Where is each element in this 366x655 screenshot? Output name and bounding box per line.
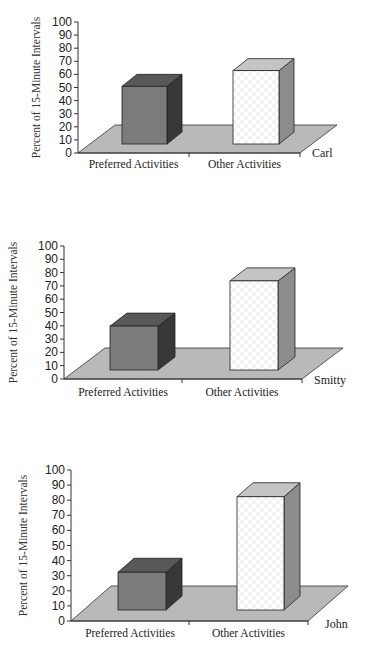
- y-axis: 0102030405060708090100: [52, 15, 78, 160]
- y-axis-title: Percent of 15-Minute Intervals: [17, 474, 29, 616]
- x-category-label: Preferred Activities: [78, 386, 168, 398]
- y-tick-label: 40: [52, 554, 66, 568]
- y-tick-label: 0: [58, 614, 65, 628]
- y-tick-label: 10: [59, 133, 73, 147]
- y-tick-label: 40: [59, 94, 73, 108]
- chart-floor: [78, 125, 337, 153]
- chart-john: 0102030405060708090100Preferred Activiti…: [0, 455, 366, 655]
- x-category-label: Other Activities: [208, 158, 282, 170]
- y-tick-label: 20: [59, 120, 73, 134]
- bar-other-activities: [230, 268, 295, 370]
- y-tick-label: 90: [59, 28, 73, 42]
- y-tick-label: 20: [45, 345, 59, 359]
- y-tick-label: 20: [52, 584, 66, 598]
- y-tick-label: 50: [59, 81, 73, 95]
- y-tick-label: 60: [45, 292, 59, 306]
- chart-smitty: 0102030405060708090100Preferred Activiti…: [0, 225, 366, 410]
- y-tick-label: 100: [52, 15, 72, 29]
- y-tick-label: 70: [59, 54, 73, 68]
- bar-preferred-activities: [122, 74, 182, 144]
- y-tick-label: 80: [45, 266, 59, 280]
- bar-preferred-activities: [118, 558, 182, 610]
- y-tick-label: 10: [45, 359, 59, 373]
- y-tick-label: 80: [52, 493, 66, 507]
- y-tick-label: 40: [45, 319, 59, 333]
- y-tick-label: 70: [52, 508, 66, 522]
- y-axis-title: Percent of 15-Minute Intervals: [7, 241, 19, 383]
- series-label: Smitty: [314, 373, 346, 387]
- y-tick-label: 50: [45, 306, 59, 320]
- y-tick-label: 60: [59, 67, 73, 81]
- y-axis: 0102030405060708090100: [38, 239, 64, 386]
- x-category-label: Preferred Activities: [89, 158, 179, 170]
- y-tick-label: 0: [51, 372, 58, 386]
- y-tick-label: 50: [52, 539, 66, 553]
- x-category-label: Other Activities: [212, 627, 286, 639]
- y-tick-label: 0: [65, 146, 72, 160]
- bar-other-activities: [237, 483, 300, 610]
- x-category-label: Preferred Activities: [85, 627, 175, 639]
- y-tick-label: 100: [45, 463, 65, 477]
- y-tick-label: 70: [45, 279, 59, 293]
- y-tick-label: 30: [45, 332, 59, 346]
- chart-carl: 0102030405060708090100Preferred Activiti…: [0, 0, 366, 210]
- x-category-label: Other Activities: [205, 386, 279, 398]
- y-tick-label: 60: [52, 523, 66, 537]
- y-tick-label: 80: [59, 41, 73, 55]
- y-tick-label: 100: [38, 239, 58, 253]
- chart-floor: [71, 586, 348, 621]
- y-tick-label: 30: [59, 107, 73, 121]
- bar-preferred-activities: [110, 313, 175, 370]
- series-label: Carl: [312, 146, 333, 160]
- y-axis: 0102030405060708090100: [45, 463, 71, 628]
- y-axis-title: Percent of 15-Minute Intervals: [30, 16, 42, 158]
- chart-floor: [64, 348, 343, 379]
- y-tick-label: 30: [52, 569, 66, 583]
- y-tick-label: 10: [52, 599, 66, 613]
- series-label: John: [325, 617, 348, 631]
- y-tick-label: 90: [45, 252, 59, 266]
- bar-other-activities: [233, 59, 294, 144]
- y-tick-label: 90: [52, 478, 66, 492]
